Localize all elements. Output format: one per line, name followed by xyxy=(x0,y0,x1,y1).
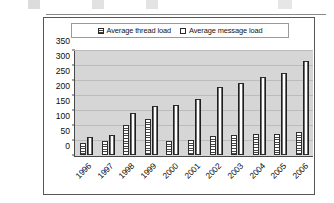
y-axis-tick-label: 100 xyxy=(56,111,70,121)
bar-thread-load-1999 xyxy=(145,119,151,155)
chart-container: Average thread load Average message load… xyxy=(43,17,315,195)
x-axis-label-2004: 2004 xyxy=(247,161,267,181)
y-axis-tick-mark xyxy=(72,95,75,96)
legend-entry-message-load: Average message load xyxy=(180,26,262,35)
x-axis-label-slot: 2000 xyxy=(162,159,184,199)
x-axis-label-slot: 2006 xyxy=(292,159,314,199)
bar-thread-load-2003 xyxy=(231,135,237,155)
bar-group xyxy=(248,51,270,155)
bar-thread-load-2004 xyxy=(253,134,259,155)
legend-swatch-striped-icon xyxy=(98,28,104,34)
x-axis-label-slot: 1999 xyxy=(140,159,162,199)
y-axis-tick-label: 300 xyxy=(56,51,70,61)
x-axis-label-slot: 2004 xyxy=(249,159,271,199)
x-axis-label-2003: 2003 xyxy=(225,161,245,181)
y-axis-tick-mark xyxy=(72,125,75,126)
bar-thread-load-1997 xyxy=(102,141,108,155)
y-axis-tick-label: 250 xyxy=(56,66,70,76)
bar-group xyxy=(291,51,313,155)
y-axis-tick-mark xyxy=(72,65,75,66)
x-axis-label-1999: 1999 xyxy=(138,161,158,181)
bar-message-load-2005 xyxy=(281,73,287,155)
bar-thread-load-2000 xyxy=(166,141,172,155)
bar-thread-load-2002 xyxy=(210,136,216,155)
x-axis-label-slot: 2005 xyxy=(271,159,293,199)
bar-message-load-2001 xyxy=(195,99,201,155)
plot-area: 050100150200250300350 xyxy=(74,51,313,157)
bar-message-load-1998 xyxy=(130,113,136,155)
bar-message-load-1997 xyxy=(109,135,115,155)
x-axis-label-slot: 1997 xyxy=(97,159,119,199)
x-axis-label-slot: 1996 xyxy=(75,159,97,199)
x-axis-label-slot: 2001 xyxy=(184,159,206,199)
bar-message-load-2000 xyxy=(173,105,179,155)
bar-group xyxy=(98,51,120,155)
legend-label-thread-load: Average thread load xyxy=(107,26,172,35)
y-axis-tick-label: 0 xyxy=(65,141,70,151)
y-axis-tick-mark xyxy=(72,140,75,141)
x-axis-label-slot: 1998 xyxy=(118,159,140,199)
x-axis-label-2006: 2006 xyxy=(291,161,311,181)
x-axis-label-slot: 2002 xyxy=(205,159,227,199)
y-axis-tick-label: 150 xyxy=(56,96,70,106)
y-axis-tick-label: 50 xyxy=(60,126,70,136)
legend-swatch-solid-icon xyxy=(180,28,186,34)
bar-message-load-2003 xyxy=(238,83,244,155)
x-axis-label-2000: 2000 xyxy=(160,161,180,181)
bar-thread-load-2005 xyxy=(274,134,280,155)
bar-message-load-1999 xyxy=(152,106,158,155)
x-axis-label-2002: 2002 xyxy=(204,161,224,181)
legend-entry-thread-load: Average thread load xyxy=(98,26,172,35)
x-axis-label-slot: 2003 xyxy=(227,159,249,199)
x-axis-label-1997: 1997 xyxy=(95,161,115,181)
y-axis-tick-label: 200 xyxy=(56,81,70,91)
bar-group xyxy=(227,51,249,155)
bar-group xyxy=(205,51,227,155)
bar-group xyxy=(270,51,292,155)
bar-group xyxy=(119,51,141,155)
x-axis-label-1998: 1998 xyxy=(117,161,137,181)
x-axis-label-2005: 2005 xyxy=(269,161,289,181)
bar-thread-load-1998 xyxy=(123,125,129,155)
legend-label-message-load: Average message load xyxy=(189,26,262,35)
y-axis-tick-label: 350 xyxy=(56,36,70,46)
bar-group xyxy=(141,51,163,155)
scan-artifact xyxy=(0,0,334,9)
bar-series-group xyxy=(76,51,313,155)
x-axis-labels: 1996199719981999200020012002200320042005… xyxy=(75,159,314,199)
y-axis-tick-mark xyxy=(72,50,75,51)
page-horizontal-rule xyxy=(46,14,326,15)
bar-group xyxy=(162,51,184,155)
bar-group xyxy=(184,51,206,155)
y-axis-tick-mark xyxy=(72,155,75,156)
bar-thread-load-2006 xyxy=(296,132,302,155)
bar-message-load-2002 xyxy=(217,87,223,155)
chart-legend: Average thread load Average message load xyxy=(71,23,289,38)
bar-message-load-1996 xyxy=(87,137,93,155)
x-axis-label-2001: 2001 xyxy=(182,161,202,181)
plot-wrapper: 050100150200250300350 xyxy=(74,51,313,157)
y-axis-tick-mark xyxy=(72,80,75,81)
bar-message-load-2006 xyxy=(303,61,309,155)
y-axis-tick-mark xyxy=(72,110,75,111)
bar-thread-load-1996 xyxy=(80,143,86,155)
bar-message-load-2004 xyxy=(260,77,266,155)
bar-thread-load-2001 xyxy=(188,140,194,155)
bar-group xyxy=(76,51,98,155)
x-axis-label-1996: 1996 xyxy=(73,161,93,181)
